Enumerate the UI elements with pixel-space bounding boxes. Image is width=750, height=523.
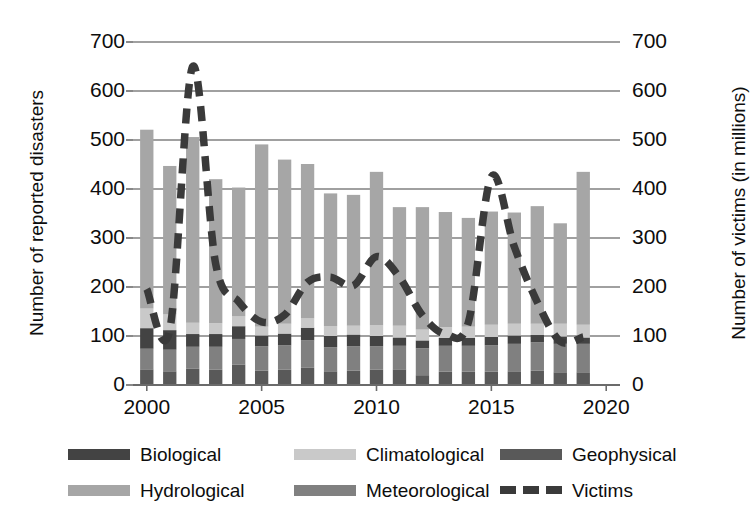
bar-segment — [370, 336, 383, 346]
x-axis-tick-label: 2015 — [446, 395, 536, 419]
bar-segment — [255, 346, 268, 371]
bar-segment — [278, 370, 291, 385]
bar-segment — [554, 344, 567, 372]
legend-label: Meteorological — [366, 481, 490, 500]
legend-label: Climatological — [366, 445, 484, 464]
bar-segment — [301, 328, 314, 341]
y-axis-right-tick-label: 600 — [632, 78, 696, 102]
bar-segment — [163, 350, 176, 372]
bar-segment — [324, 326, 337, 336]
bar-segment — [209, 334, 222, 347]
bar-segment — [301, 340, 314, 367]
bar-segment — [531, 206, 544, 324]
bar-segment — [508, 336, 521, 344]
bar-segment — [347, 335, 360, 347]
bar-segment — [416, 375, 429, 385]
bar-segment — [347, 326, 360, 335]
x-axis-tick-label: 2005 — [217, 395, 307, 419]
bar-segment — [508, 344, 521, 371]
bar-segment — [347, 371, 360, 385]
legend-label: Biological — [140, 445, 221, 464]
bar-segment — [485, 212, 498, 325]
bar-segment — [508, 371, 521, 385]
legend-item-victims[interactable]: Victims — [500, 478, 633, 502]
bar-segment — [439, 346, 452, 372]
bar-segment — [393, 337, 406, 345]
bar-segment — [209, 370, 222, 385]
legend-item-climatological[interactable]: Climatological — [294, 442, 484, 466]
bar-segment — [278, 345, 291, 370]
bar-segment — [324, 193, 337, 326]
legend-label: Victims — [572, 481, 633, 500]
bar-segment — [255, 336, 268, 347]
bar-segment — [554, 223, 567, 323]
y-axis-right-tick-label: 100 — [632, 323, 696, 347]
bar-segment — [462, 372, 475, 385]
y-axis-right-tick-label: 200 — [632, 274, 696, 298]
bar-segment — [278, 324, 291, 334]
bar-segment — [209, 323, 222, 334]
legend-label: Hydrological — [140, 481, 245, 500]
bar-segment — [485, 345, 498, 371]
bar-segment — [163, 371, 176, 385]
x-axis-tick-label: 2000 — [102, 395, 192, 419]
legend-label: Geophysical — [572, 445, 677, 464]
bar-segment — [577, 372, 590, 385]
legend-item-hydrological[interactable]: Hydrological — [68, 478, 245, 502]
legend-swatch-icon — [294, 449, 356, 460]
legend-swatch-icon — [68, 485, 130, 496]
legend-item-geophysical[interactable]: Geophysical — [500, 442, 677, 466]
bar-segment — [209, 347, 222, 370]
bar-segment — [439, 372, 452, 385]
bar-segment — [255, 327, 268, 336]
bar-segment — [577, 344, 590, 372]
bar-segment — [278, 334, 291, 346]
bar-segment — [416, 340, 429, 348]
legend-item-meteorological[interactable]: Meteorological — [294, 478, 490, 502]
bar-segment — [324, 336, 337, 347]
bar-segment — [209, 179, 222, 323]
bar-segment — [186, 137, 199, 323]
bar-segment — [140, 349, 153, 370]
chart-legend: BiologicalClimatologicalGeophysicalHydro… — [0, 440, 735, 520]
legend-swatch-icon — [68, 449, 130, 460]
bar-segment — [232, 316, 245, 326]
y-axis-left-tick-label: 700 — [61, 29, 125, 53]
bar-segment — [186, 347, 199, 369]
y-axis-left-tick-label: 600 — [61, 78, 125, 102]
bar-segment — [485, 337, 498, 345]
bar-segment — [232, 339, 245, 364]
y-axis-right-tick-label: 700 — [632, 29, 696, 53]
x-axis-tick-label: 2020 — [561, 395, 651, 419]
bar-segment — [393, 369, 406, 385]
bar-segment — [324, 347, 337, 371]
y-axis-right-tick-label: 300 — [632, 225, 696, 249]
bar-segment — [278, 160, 291, 324]
y-axis-right-tick-label: 400 — [632, 176, 696, 200]
bar-segment — [462, 346, 475, 372]
bar-segment — [439, 212, 452, 327]
bar-segment — [232, 364, 245, 385]
y-axis-left-tick-label: 100 — [61, 323, 125, 347]
bar-segment — [531, 335, 544, 342]
bar-segment — [255, 371, 268, 385]
y-axis-left-tick-label: 400 — [61, 176, 125, 200]
bar-segment — [347, 195, 360, 326]
bar-segment — [232, 326, 245, 339]
bar-segment — [301, 318, 314, 327]
bar-segment — [140, 328, 153, 349]
y-axis-left-tick-label: 0 — [61, 372, 125, 396]
y-axis-right-tick-label: 0 — [632, 372, 696, 396]
y-axis-right-tick-label: 500 — [632, 127, 696, 151]
legend-item-biological[interactable]: Biological — [68, 442, 221, 466]
y-axis-left-tick-label: 300 — [61, 225, 125, 249]
bar-segment — [186, 369, 199, 385]
bar-segment — [370, 346, 383, 370]
bar-segment — [370, 172, 383, 325]
y-axis-left-tick-label: 500 — [61, 127, 125, 151]
bar-segment — [301, 368, 314, 385]
bar-segment — [370, 325, 383, 336]
legend-swatch-icon — [294, 485, 356, 496]
bar-segment — [186, 323, 199, 334]
